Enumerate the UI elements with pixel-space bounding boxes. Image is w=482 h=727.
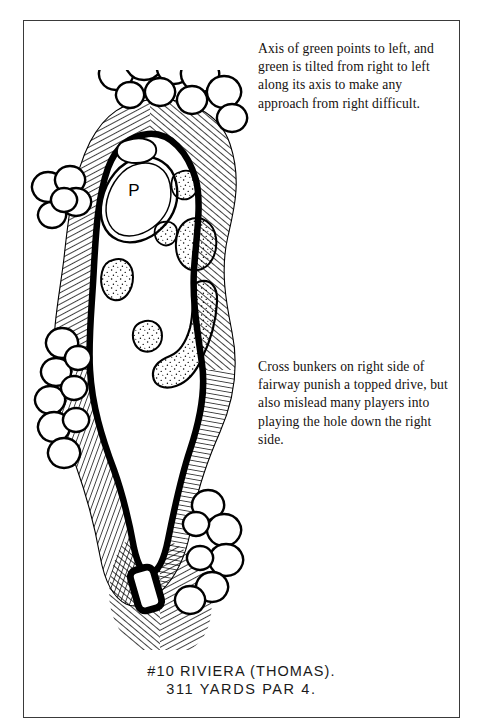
bunker-left-fairway xyxy=(101,259,133,300)
golf-hole-illustration: P xyxy=(20,70,280,650)
annotation-cross-bunkers: Cross bunkers on right side of fairway p… xyxy=(258,358,458,449)
bunker-below-green xyxy=(155,222,177,246)
bunker-greenside-right xyxy=(171,171,198,200)
page-canvas: P xyxy=(0,0,482,727)
annotation-green-axis: Axis of green points to left, and green … xyxy=(258,40,456,113)
bunker-centre-fairway xyxy=(133,321,162,352)
caption-yardage-par: 311 YARDS PAR 4. xyxy=(23,681,460,697)
bunker-right-greenside xyxy=(176,218,216,270)
bunker-green-front-left xyxy=(117,138,156,163)
pin-position-marker: P xyxy=(128,181,139,200)
caption-hole-title: #10 RIVIERA (THOMAS). xyxy=(23,663,460,679)
